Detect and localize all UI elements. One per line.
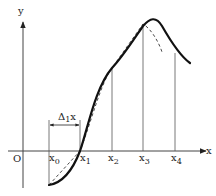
- point-label-x4: x4: [171, 152, 182, 166]
- origin-label: O: [13, 153, 21, 164]
- diagram-canvas: y x O x0 x1 x2 x3 x4 Δ1x: [0, 0, 216, 196]
- point-label-x0: x0: [49, 152, 60, 166]
- point-label-x1: x1: [80, 152, 91, 166]
- delta-interval-label: Δ1x: [58, 111, 76, 124]
- function-curve: [49, 19, 190, 185]
- x-axis-label: x: [206, 145, 212, 156]
- point-label-x3: x3: [139, 152, 150, 166]
- point-label-x2: x2: [108, 152, 119, 166]
- y-axis-label: y: [17, 5, 24, 16]
